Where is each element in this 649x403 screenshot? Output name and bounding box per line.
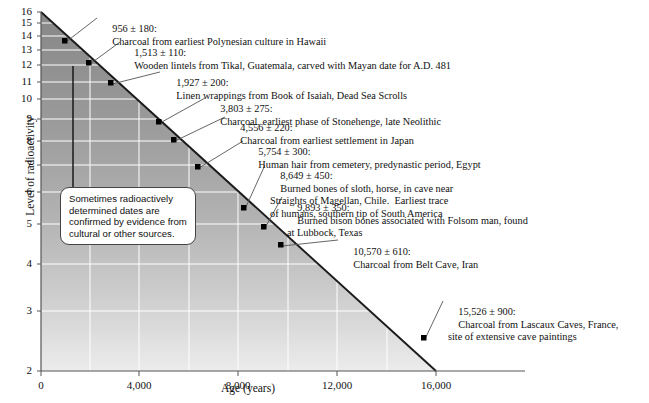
x-axis-ticks [41,371,436,376]
data-point-marker [86,60,92,66]
data-point-marker [195,164,201,170]
x-tick-label-4000: 4,000 [109,379,169,391]
data-point-marker [171,137,177,143]
callout-line-3: confirmed by evidence from [69,216,188,228]
x-axis-title: Age (years) [168,382,328,394]
x-tick-label-16000: 16,000 [406,379,466,391]
y-tick-label-12: 12 [10,58,32,70]
callout-line-2: determined dates are [69,205,188,217]
annotation-value: 5,754 ± 300: [258,146,310,157]
data-point-marker [261,224,267,230]
y-tick-label-3: 3 [10,304,32,316]
annotation-value: 8,649 ± 450: [280,170,332,181]
y-tick-label-13: 13 [10,43,32,55]
data-point-marker [62,38,68,44]
y-tick-label-4: 4 [10,257,32,269]
annotation-value: 1,927 ± 200: [176,77,228,88]
x-tick-label-0: 0 [11,379,71,391]
data-point-marker [421,335,427,341]
annotation-value: 1,513 ± 110: [134,47,186,58]
data-point-marker [108,80,114,86]
callout-line-1: Sometimes radioactively [69,193,188,205]
data-point-marker [278,242,284,248]
annotation-value: 15,526 ± 900: [458,306,515,317]
y-tick-label-14: 14 [10,29,32,41]
annotation-text: Charcoal from Lascaux Caves, France, sit… [448,319,618,342]
annotation-10570: 10,570 ± 610: Charcoal from Belt Cave, I… [343,234,478,284]
y-tick-label-15: 15 [10,16,32,28]
radiocarbon-decay-chart: 16 15 14 13 12 11 10 9 8 7 6 5 4 3 2 0 4… [0,0,649,403]
annotation-text: Charcoal from Belt Cave, Iran [353,259,478,270]
data-point-marker [241,205,247,211]
annotation-value: 9,893 ± 350: [297,202,349,213]
annotation-value: 4,556 ± 220: [240,122,292,133]
annotation-value: 10,570 ± 610: [353,246,410,257]
y-tick-label-2: 2 [10,364,32,376]
annotation-15526: 15,526 ± 900: Charcoal from Lascaux Cave… [448,294,618,356]
data-point-marker [156,119,162,125]
callout-box: Sometimes radioactively determined dates… [60,187,196,245]
annotation-value: 956 ± 180: [112,23,157,34]
y-axis-title: Level of radioactivity [24,86,36,246]
callout-line-4: cultural or other sources. [69,228,188,240]
